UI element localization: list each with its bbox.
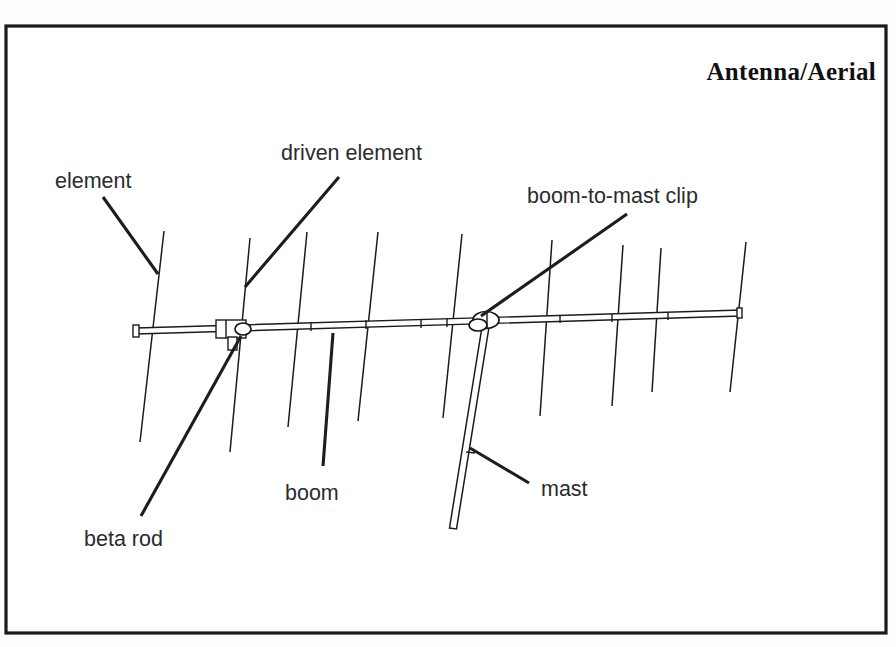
label-driven-element: driven element <box>281 141 422 165</box>
label-element: element <box>55 169 132 193</box>
figure-title: Antenna/Aerial <box>707 58 876 85</box>
label-boom-to-mast-clip: boom-to-mast clip <box>527 184 698 208</box>
mast-joint-mark <box>466 452 475 453</box>
antenna-diagram-figure: Antenna/Aerial element driven element bo… <box>0 0 896 647</box>
antenna-diagram-canvas: Antenna/Aerial element driven element bo… <box>0 0 896 647</box>
driven-element-collar <box>235 323 251 335</box>
label-boom: boom <box>285 481 339 505</box>
boom-right-end-cap <box>737 308 742 318</box>
label-beta-rod: beta rod <box>84 527 163 551</box>
boom-to-mast-clip-collar <box>469 319 487 331</box>
label-mast: mast <box>541 477 588 501</box>
boom-left-end-cap <box>133 325 139 337</box>
